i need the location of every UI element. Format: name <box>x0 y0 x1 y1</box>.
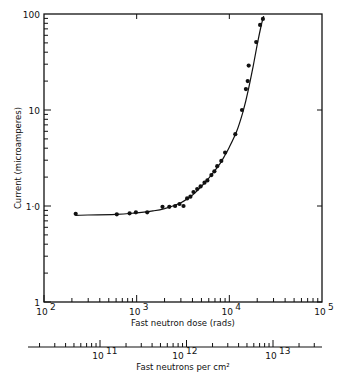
data-point <box>181 204 185 208</box>
x-tick-label: 10 <box>129 307 141 317</box>
secondary-x-tick-label: 10 <box>265 351 277 361</box>
secondary-x-axis: 101110121013 <box>28 340 322 361</box>
data-point <box>247 64 251 68</box>
data-point <box>188 195 192 199</box>
data-point <box>258 23 262 27</box>
data-point <box>261 17 265 21</box>
data-point <box>212 169 216 173</box>
secondary-x-tick-exponent: 11 <box>106 346 117 356</box>
data-point <box>160 205 164 209</box>
secondary-x-tick-label: 10 <box>172 351 184 361</box>
data-point <box>209 173 213 177</box>
y-tick-label: 1·0 <box>26 202 41 212</box>
data-point <box>199 184 203 188</box>
data-point <box>177 202 181 206</box>
data-point <box>145 210 149 214</box>
data-point <box>215 164 219 168</box>
data-points <box>74 17 265 217</box>
x-axis: 102103104105 <box>36 14 333 317</box>
x-tick-exponent: 3 <box>143 302 149 312</box>
fitted-curve <box>76 16 264 215</box>
data-point <box>254 40 258 44</box>
y-axis-title: Current (microamperes) <box>13 107 23 209</box>
data-point <box>167 205 171 209</box>
x-axis-title: Fast neutron dose (rads) <box>131 318 235 328</box>
x-tick-exponent: 5 <box>328 302 334 312</box>
plot-frame <box>44 14 322 302</box>
data-point <box>246 79 250 83</box>
x-tick-label: 10 <box>36 307 48 317</box>
data-point <box>115 212 119 216</box>
data-point <box>191 190 195 194</box>
y-axis: 100101·01 <box>23 10 322 308</box>
x-tick-exponent: 4 <box>235 302 241 312</box>
data-point <box>195 187 199 191</box>
y-tick-label: 10 <box>29 106 41 116</box>
data-point <box>219 159 223 163</box>
data-point <box>233 132 237 136</box>
data-point <box>240 108 244 112</box>
data-point <box>244 87 248 91</box>
plot-border <box>44 14 322 302</box>
data-point <box>74 212 78 216</box>
y-tick-label: 1 <box>34 298 40 308</box>
data-point <box>173 204 177 208</box>
data-point <box>134 210 138 214</box>
data-point <box>223 151 227 155</box>
curve-path <box>76 16 264 215</box>
secondary-x-axis-title: Fast neutrons per cm² <box>136 362 229 372</box>
secondary-x-tick-exponent: 13 <box>279 346 290 356</box>
chart: 100101·01 102103104105 101110121013 Fast… <box>0 0 345 381</box>
secondary-x-tick-label: 10 <box>92 351 104 361</box>
x-tick-label: 10 <box>222 307 234 317</box>
x-tick-exponent: 2 <box>50 302 56 312</box>
secondary-x-tick-exponent: 12 <box>186 346 197 356</box>
data-point <box>205 178 209 182</box>
data-point <box>128 211 132 215</box>
x-tick-label: 10 <box>314 307 326 317</box>
y-tick-label: 100 <box>23 10 40 20</box>
